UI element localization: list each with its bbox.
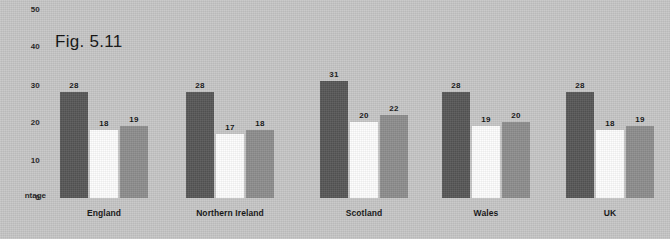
bar [626, 126, 654, 198]
bar [566, 92, 594, 198]
bar-chart: Fig. 5.11 ntage 0 10 20 30 40 50 281819E… [0, 0, 670, 239]
bar-group: 281819UK [0, 0, 670, 239]
bar [596, 130, 624, 198]
bar-value-label: 19 [626, 115, 654, 124]
bar-value-label: 18 [596, 119, 624, 128]
category-label: UK [566, 208, 654, 218]
bar-value-label: 28 [566, 81, 594, 90]
